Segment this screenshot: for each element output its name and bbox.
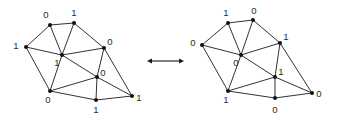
right-graph-edges bbox=[202, 20, 312, 98]
vertex-label: 1 bbox=[223, 7, 228, 18]
vertex-label: 0 bbox=[272, 104, 277, 115]
vertex-label: 0 bbox=[251, 5, 256, 16]
graph-edge bbox=[228, 20, 253, 23]
graph-vertex bbox=[48, 23, 52, 27]
graph-figure-svg: 011010011 100101100 bbox=[0, 0, 337, 121]
graph-edge bbox=[96, 77, 97, 100]
graph-vertex bbox=[273, 96, 277, 100]
graph-edge bbox=[241, 20, 253, 55]
graph-vertex bbox=[226, 89, 230, 93]
graph-edge bbox=[228, 77, 275, 91]
graph-edge bbox=[26, 47, 62, 55]
graph-vertex bbox=[102, 46, 106, 50]
graph-vertex bbox=[200, 43, 204, 47]
right-graph: 100101100 bbox=[190, 5, 321, 115]
vertex-label: 0 bbox=[316, 88, 321, 99]
vertex-label: 1 bbox=[54, 57, 59, 68]
graph-edge bbox=[241, 43, 280, 55]
graph-edge bbox=[96, 96, 132, 100]
graph-edge bbox=[62, 55, 97, 77]
double-arrow-connector bbox=[147, 58, 184, 63]
vertex-label: 0 bbox=[45, 94, 50, 105]
figure-root: 011010011 100101100 bbox=[0, 0, 337, 121]
graph-edge bbox=[50, 25, 62, 55]
graph-edge bbox=[50, 91, 96, 100]
vertex-label: 0 bbox=[190, 37, 195, 48]
arrow-head-right-icon bbox=[179, 58, 184, 63]
graph-vertex bbox=[94, 98, 98, 102]
vertex-label: 1 bbox=[223, 94, 228, 105]
vertex-label: 0 bbox=[107, 36, 112, 47]
vertex-label: 1 bbox=[283, 31, 288, 42]
vertex-label: 0 bbox=[100, 67, 105, 78]
vertex-label: 1 bbox=[71, 7, 76, 18]
graph-vertex bbox=[278, 41, 282, 45]
graph-edge bbox=[26, 47, 50, 91]
graph-vertex bbox=[60, 53, 64, 57]
graph-vertex bbox=[273, 75, 277, 79]
left-graph-edges bbox=[26, 23, 132, 100]
graph-vertex bbox=[24, 45, 28, 49]
graph-vertex bbox=[310, 91, 314, 95]
graph-edge bbox=[202, 23, 228, 45]
graph-edge bbox=[202, 45, 241, 55]
graph-vertex bbox=[251, 18, 255, 22]
graph-edge bbox=[62, 48, 104, 55]
graph-vertex bbox=[48, 89, 52, 93]
graph-edge bbox=[253, 20, 280, 43]
graph-edge bbox=[74, 23, 104, 48]
vertex-label: 0 bbox=[43, 9, 48, 20]
graph-vertex bbox=[72, 21, 76, 25]
graph-edge bbox=[280, 43, 312, 93]
graph-vertex bbox=[95, 75, 99, 79]
graph-vertex bbox=[130, 94, 134, 98]
graph-edge bbox=[26, 25, 50, 47]
graph-vertex bbox=[239, 53, 243, 57]
vertex-label: 1 bbox=[13, 40, 18, 51]
graph-edge bbox=[62, 23, 74, 55]
graph-edge bbox=[241, 55, 275, 77]
vertex-label: 0 bbox=[233, 57, 238, 68]
graph-edge bbox=[50, 23, 74, 25]
graph-edge bbox=[228, 23, 241, 55]
graph-edge bbox=[202, 45, 228, 91]
graph-edge bbox=[275, 93, 312, 98]
graph-vertex bbox=[226, 21, 230, 25]
left-graph-vertices: 011010011 bbox=[13, 7, 141, 115]
vertex-label: 1 bbox=[93, 104, 98, 115]
graph-edge bbox=[228, 91, 275, 98]
graph-edge bbox=[50, 77, 97, 91]
vertex-label: 1 bbox=[278, 66, 283, 77]
left-graph: 011010011 bbox=[13, 7, 141, 115]
vertex-label: 1 bbox=[136, 92, 141, 103]
arrow-head-left-icon bbox=[147, 58, 152, 63]
